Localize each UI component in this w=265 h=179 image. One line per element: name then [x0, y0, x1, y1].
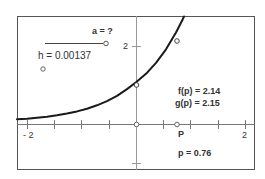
- x-tick-label-2: 2: [242, 131, 247, 140]
- p-point[interactable]: [175, 122, 180, 127]
- slider-handle[interactable]: [104, 41, 109, 46]
- h-value-label: h = 0.00137: [38, 51, 91, 61]
- graph-svg: [0, 0, 265, 179]
- p-value-readout: p = 0.76: [178, 149, 211, 158]
- x-tick-label-neg2: - 2: [23, 131, 34, 140]
- curve-point[interactable]: [175, 39, 180, 44]
- free-point[interactable]: [41, 67, 45, 71]
- p-point-label: P: [178, 130, 184, 139]
- graph-canvas: a = ? h = 0.00137 2 - 2 2 P f(p) = 2.14 …: [0, 0, 265, 179]
- f-of-p-readout: f(p) = 2.14: [178, 87, 220, 96]
- origin-point[interactable]: [134, 122, 139, 127]
- y-intercept-point[interactable]: [134, 83, 139, 88]
- g-of-p-readout: g(p) = 2.15: [175, 99, 220, 108]
- y-tick-label-2: 2: [123, 42, 128, 51]
- slider-label: a = ?: [92, 27, 113, 36]
